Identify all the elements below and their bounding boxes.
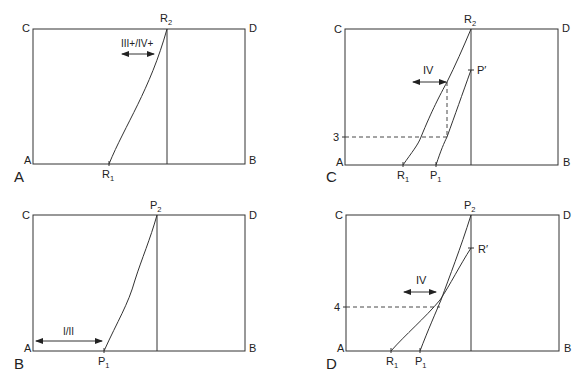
panel-c-corner-d: D <box>562 22 570 34</box>
panel-d-point-p1: P1 <box>415 355 427 370</box>
panel-a-corner-c: C <box>22 22 30 34</box>
panel-c-corner-c: C <box>334 23 342 35</box>
panel-c: C D A B C R2 P′ R1 P1 IV 3 <box>326 13 570 185</box>
panel-b-point-p1: P1 <box>98 355 110 370</box>
panel-c-point-r1: R1 <box>397 169 409 184</box>
panel-b-label: B <box>14 355 24 372</box>
panel-d: C D A B D P2 R′ R1 P1 IV 4 <box>326 199 571 372</box>
panel-a-corner-b: B <box>249 154 256 166</box>
panel-d-corner-b: B <box>564 342 571 354</box>
panel-a-point-r1: R1 <box>102 168 114 183</box>
panel-c-corner-b: B <box>563 156 570 168</box>
panel-d-point-r1: R1 <box>386 355 398 370</box>
panel-c-frame <box>345 29 558 165</box>
panel-d-level-label: 4 <box>334 301 340 313</box>
panel-d-frame <box>346 215 559 351</box>
panel-b-corner-b: B <box>249 342 256 354</box>
panel-c-point-r2: R2 <box>464 13 476 28</box>
panel-c-arrow-label: IV <box>423 64 434 76</box>
panel-d-corner-c: C <box>335 209 343 221</box>
panel-c-point-p1: P1 <box>430 169 442 184</box>
panel-d-corner-d: D <box>563 209 571 221</box>
panel-a-frame <box>33 29 245 164</box>
panel-a: C D A B A R2 R1 III+/IV+ <box>14 12 257 185</box>
panel-b-corner-c: C <box>22 209 30 221</box>
panel-c-corner-a: A <box>336 156 344 168</box>
panel-d-point-rprime: R′ <box>478 243 488 255</box>
panel-b-corner-d: D <box>249 209 257 221</box>
panel-c-level-label: 3 <box>333 131 339 143</box>
panel-a-label: A <box>14 168 24 185</box>
panel-d-point-p2: P2 <box>464 199 476 214</box>
panel-b-point-p2: P2 <box>150 199 162 214</box>
panel-a-corner-d: D <box>249 22 257 34</box>
diagram-canvas: C D A B A R2 R1 III+/IV+ C D A B C R2 P′… <box>0 0 583 379</box>
panel-b-curve-p1-p2 <box>104 215 157 351</box>
panel-d-corner-a: A <box>337 342 345 354</box>
panel-a-curve-r1-r2 <box>109 29 167 164</box>
panel-b-corner-a: A <box>24 342 32 354</box>
panel-d-curve-p1-p2 <box>420 215 471 351</box>
panel-c-curve-r1-r2 <box>403 29 471 165</box>
panel-c-curve-p1-pprime <box>436 70 471 165</box>
panel-b: C D A B B P2 P1 I/II <box>14 199 257 372</box>
panel-d-curve-r1-rprime <box>391 248 471 351</box>
panel-b-arrow-label: I/II <box>63 326 74 337</box>
panel-d-label: D <box>326 355 337 372</box>
panel-c-point-pprime: P′ <box>477 64 486 76</box>
panel-a-arrow-label: III+/IV+ <box>121 38 153 49</box>
panel-c-label: C <box>326 168 337 185</box>
panel-d-arrow-label: IV <box>416 274 427 286</box>
panel-a-corner-a: A <box>24 154 32 166</box>
panel-a-point-r2: R2 <box>160 12 172 27</box>
